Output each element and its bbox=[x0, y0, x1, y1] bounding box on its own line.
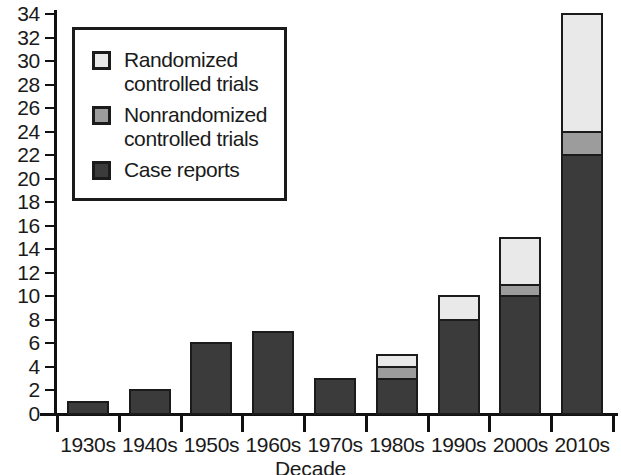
legend-swatch-case-reports-icon bbox=[92, 161, 111, 180]
bar-1980s bbox=[376, 14, 418, 414]
y-axis-tick-mark bbox=[45, 178, 54, 180]
y-axis-tick-mark bbox=[45, 295, 54, 297]
y-axis-tick-mark bbox=[45, 84, 54, 86]
y-axis-tick-label: 34 bbox=[17, 3, 40, 24]
y-axis-tick-mark bbox=[45, 13, 54, 15]
y-axis-tick-label: 16 bbox=[17, 215, 40, 236]
legend-label-randomized: Randomized controlled trials bbox=[124, 48, 258, 96]
bar-segment bbox=[129, 389, 171, 415]
y-axis-tick-label: 28 bbox=[17, 74, 40, 95]
bar-segment bbox=[376, 378, 418, 415]
x-axis-tick-mark bbox=[303, 416, 306, 432]
x-axis-tick-label: 1950s bbox=[181, 434, 243, 456]
y-axis-tick-mark bbox=[45, 319, 54, 321]
x-axis-tick-label: 1970s bbox=[304, 434, 366, 456]
bar-segment bbox=[499, 295, 541, 415]
bar-segment bbox=[376, 366, 418, 380]
bar-2010s bbox=[561, 14, 603, 414]
x-axis-tick-mark bbox=[488, 416, 491, 432]
y-axis-tick-label: 22 bbox=[17, 144, 40, 165]
bar-segment bbox=[499, 237, 541, 286]
bar-segment bbox=[561, 13, 603, 133]
y-axis-tick-mark bbox=[45, 342, 54, 344]
bar-segment bbox=[376, 354, 418, 368]
y-axis-tick-mark bbox=[45, 60, 54, 62]
legend: Randomized controlled trials Nonrandomiz… bbox=[72, 27, 287, 201]
x-axis-tick-label: 2010s bbox=[551, 434, 613, 456]
y-axis-tick-label: 20 bbox=[17, 168, 40, 189]
y-axis-tick-label: 18 bbox=[17, 191, 40, 212]
y-axis-tick-label: 32 bbox=[17, 27, 40, 48]
y-axis-tick-mark bbox=[45, 201, 54, 203]
y-axis-tick-label: 10 bbox=[17, 285, 40, 306]
bar-2000s bbox=[499, 14, 541, 414]
bar-segment bbox=[561, 154, 603, 415]
bar-segment bbox=[438, 319, 480, 415]
bar-1990s bbox=[438, 14, 480, 414]
y-axis-tick-label: 6 bbox=[29, 332, 40, 353]
y-axis-tick-mark bbox=[45, 154, 54, 156]
bar-segment bbox=[67, 401, 109, 415]
stacked-bar-chart: 0246810121416182022242628303234 1930s194… bbox=[0, 0, 621, 475]
bar-segment bbox=[314, 378, 356, 415]
x-axis-tick-label: 1930s bbox=[57, 434, 119, 456]
bar-segment bbox=[499, 284, 541, 298]
bar-1970s bbox=[314, 14, 356, 414]
legend-item-randomized: Randomized controlled trials bbox=[92, 48, 258, 96]
x-axis-tick-mark bbox=[118, 416, 121, 432]
y-axis-tick-mark bbox=[45, 272, 54, 274]
legend-item-case-reports: Case reports bbox=[92, 158, 239, 182]
y-axis-tick-label: 0 bbox=[29, 403, 40, 424]
x-axis-tick-mark bbox=[180, 416, 183, 432]
y-axis-tick-label: 30 bbox=[17, 50, 40, 71]
x-axis-tick-label: 1940s bbox=[119, 434, 181, 456]
y-axis-tick-mark bbox=[45, 107, 54, 109]
bar-segment bbox=[561, 131, 603, 157]
y-axis-tick-label: 24 bbox=[17, 121, 40, 142]
y-axis-tick-mark bbox=[45, 37, 54, 39]
y-axis-tick-label: 2 bbox=[29, 379, 40, 400]
y-axis-tick-mark bbox=[45, 366, 54, 368]
x-axis-tick-mark bbox=[365, 416, 368, 432]
y-axis-tick-label: 4 bbox=[29, 356, 40, 377]
x-axis-tick-label: 1980s bbox=[366, 434, 428, 456]
y-axis-tick-label: 14 bbox=[17, 238, 40, 259]
bar-segment bbox=[438, 295, 480, 321]
y-axis-tick-label: 8 bbox=[29, 309, 40, 330]
bar-segment bbox=[252, 331, 294, 415]
legend-label-nonrandomized: Nonrandomized controlled trials bbox=[124, 103, 267, 151]
x-axis-tick-label: 1990s bbox=[428, 434, 490, 456]
y-axis-tick-mark bbox=[45, 248, 54, 250]
x-axis-tick-mark bbox=[56, 416, 59, 432]
legend-swatch-randomized-icon bbox=[92, 51, 111, 70]
legend-label-case-reports: Case reports bbox=[124, 158, 239, 182]
x-axis-tick-mark bbox=[241, 416, 244, 432]
legend-item-nonrandomized: Nonrandomized controlled trials bbox=[92, 103, 267, 151]
y-axis-tick-label: 26 bbox=[17, 97, 40, 118]
legend-swatch-nonrandomized-icon bbox=[92, 106, 111, 125]
y-axis-tick-mark bbox=[45, 225, 54, 227]
bar-segment bbox=[190, 342, 232, 415]
y-axis-tick-mark bbox=[45, 389, 54, 391]
x-axis-tick-mark bbox=[550, 416, 553, 432]
x-axis-tick-mark bbox=[427, 416, 430, 432]
x-axis-tick-mark bbox=[612, 416, 615, 432]
x-axis-title: Decade bbox=[0, 458, 621, 475]
x-axis-tick-label: 1960s bbox=[242, 434, 304, 456]
y-axis-tick-label: 12 bbox=[17, 262, 40, 283]
x-axis-tick-label: 2000s bbox=[489, 434, 551, 456]
y-axis-tick-mark bbox=[45, 131, 54, 133]
